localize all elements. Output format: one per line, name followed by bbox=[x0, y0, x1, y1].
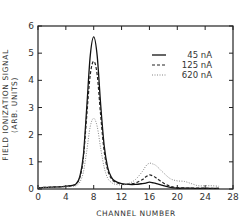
x-tick-label: 20 bbox=[172, 192, 184, 202]
x-tick-label: 28 bbox=[227, 192, 239, 202]
y-tick-label: 3 bbox=[28, 103, 34, 113]
series-line-dotted bbox=[38, 118, 219, 187]
y-tick-label: 6 bbox=[28, 21, 34, 31]
legend-label: 125 nA bbox=[182, 60, 212, 70]
y-axis-title: FIELD IONIZATION SIGNAL bbox=[1, 49, 10, 161]
y-tick-label: 5 bbox=[28, 48, 34, 58]
legend-label: 620 nA bbox=[182, 70, 212, 80]
x-tick-label: 0 bbox=[35, 192, 41, 202]
x-tick-label: 24 bbox=[199, 192, 211, 202]
x-axis-title: CHANNEL NUMBER bbox=[96, 209, 176, 218]
legend-label: 45 nA bbox=[187, 50, 212, 60]
x-tick-label: 4 bbox=[63, 192, 69, 202]
y-tick-label: 0 bbox=[28, 184, 34, 194]
x-tick-label: 12 bbox=[116, 192, 127, 202]
legend: 45 nA125 nA620 nA bbox=[152, 50, 212, 80]
axis-ticks: 04812162024280123456 bbox=[28, 21, 239, 202]
x-tick-label: 8 bbox=[91, 192, 97, 202]
x-tick-label: 16 bbox=[144, 192, 156, 202]
y-axis-subtitle: (ARB. UNITS) bbox=[10, 77, 19, 133]
line-chart: 04812162024280123456 45 nA125 nA620 nA C… bbox=[0, 0, 246, 224]
y-tick-label: 4 bbox=[28, 75, 34, 85]
y-tick-label: 2 bbox=[28, 130, 34, 140]
series-line-dashed bbox=[38, 61, 219, 188]
y-tick-label: 1 bbox=[28, 157, 34, 167]
